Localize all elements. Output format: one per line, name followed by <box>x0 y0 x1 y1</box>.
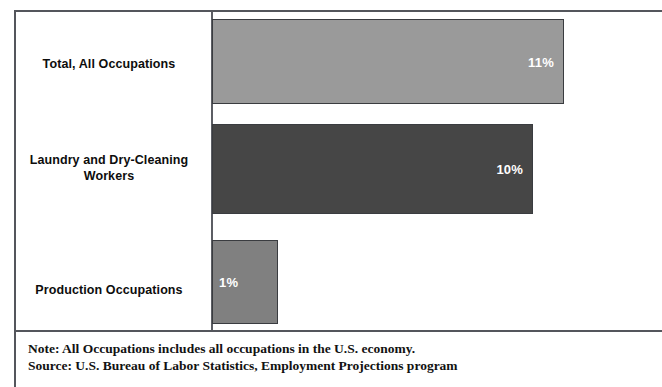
footnote-source: Source: U.S. Bureau of Labor Statistics,… <box>28 357 658 374</box>
bar-value-label-laundry-dry-cleaning-workers: 10% <box>496 162 523 177</box>
bar-production-occupations: 1% <box>212 240 278 324</box>
footnotes-block: Note: All Occupations includes all occup… <box>28 340 658 374</box>
chart-row-laundry-dry-cleaning-workers: Laundry and Dry-Cleaning Workers 10% <box>16 116 662 226</box>
category-label-line: Total, All Occupations <box>43 57 176 71</box>
chart-row-total-all-occupations: Total, All Occupations 11% <box>16 12 662 116</box>
category-label-line: Workers <box>84 169 135 183</box>
footnote-divider <box>16 330 662 332</box>
bar-value-label-total-all-occupations: 11% <box>528 54 554 69</box>
plot-area: Total, All Occupations 11% Laundry and D… <box>16 12 662 330</box>
bar-total-all-occupations: 11% <box>212 19 564 104</box>
bar-laundry-dry-cleaning-workers: 10% <box>212 124 533 214</box>
bar-value-label-production-occupations: 1% <box>219 275 238 290</box>
category-label-total-all-occupations: Total, All Occupations <box>16 56 202 72</box>
category-label-production-occupations: Production Occupations <box>16 282 202 298</box>
category-label-laundry-dry-cleaning-workers: Laundry and Dry-Cleaning Workers <box>16 152 202 184</box>
footnote-note: Note: All Occupations includes all occup… <box>28 340 658 357</box>
chart-row-production-occupations: Production Occupations 1% <box>16 226 662 330</box>
category-label-line: Production Occupations <box>35 283 182 297</box>
category-label-line: Laundry and Dry-Cleaning <box>30 153 189 167</box>
chart-figure: Total, All Occupations 11% Laundry and D… <box>0 0 662 387</box>
